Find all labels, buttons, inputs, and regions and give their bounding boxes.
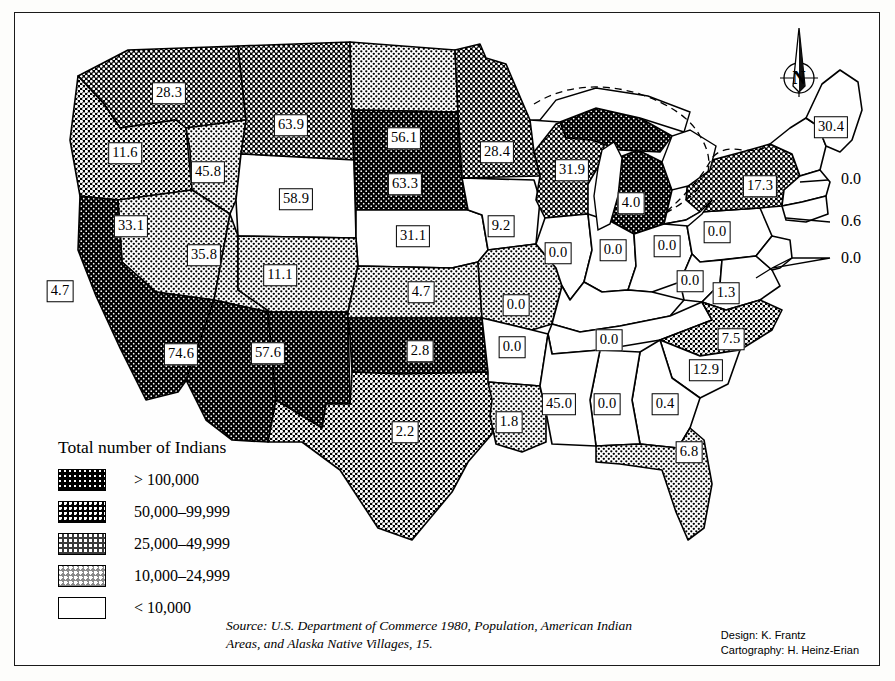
state-value-NM: 57.6: [251, 342, 285, 364]
legend-row-c5: < 10,000: [48, 597, 368, 619]
legend-row-c4: 10,000–24,999: [48, 565, 368, 587]
callout-value-1: 0.6: [841, 212, 861, 230]
state-value-MT: 63.9: [274, 114, 308, 136]
state-value-MO: 0.0: [503, 294, 530, 316]
state-value-IN: 0.0: [600, 239, 627, 261]
state-value-AR: 0.0: [499, 336, 526, 358]
state-value-ME: 30.4: [814, 116, 848, 138]
legend-swatch-c2: [58, 501, 106, 523]
state-value-KY: 0.0: [596, 329, 623, 351]
state-value-WA: 28.3: [152, 82, 186, 104]
state-value-AL: 0.0: [594, 393, 621, 415]
state-value-PA: 0.0: [704, 221, 731, 243]
legend-label-c5: < 10,000: [134, 599, 191, 617]
legend: Total number of Indians > 100,00050,000–…: [48, 437, 368, 629]
legend-row-c2: 50,000–99,999: [48, 501, 368, 523]
legend-label-c3: 25,000–49,999: [134, 535, 230, 553]
state-value-WI: 31.9: [555, 159, 589, 181]
state-value-SD: 63.3: [388, 173, 422, 195]
state-value-OR: 11.6: [108, 142, 142, 164]
credit-design: Design: K. Frantz: [721, 628, 859, 643]
source-line-1: Source: U.S. Department of Commerce 1980…: [226, 618, 632, 633]
legend-swatch-c5: [58, 597, 106, 619]
legend-title: Total number of Indians: [58, 437, 368, 458]
state-value-NE: 31.1: [396, 225, 430, 247]
state-value-MS: 45.0: [542, 393, 576, 415]
state-value-FL: 6.8: [676, 441, 703, 463]
state-value-OH: 0.0: [654, 235, 681, 257]
state-MT: [238, 42, 354, 160]
legend-swatch-c4: [58, 565, 106, 587]
state-value-LA: 1.8: [496, 411, 523, 433]
legend-row-c1: > 100,000: [48, 469, 368, 491]
state-value-NC: 7.5: [718, 328, 745, 350]
state-value-VA: 1.3: [713, 282, 740, 304]
state-CO: [238, 236, 358, 312]
legend-label-c4: 10,000–24,999: [134, 567, 230, 585]
state-value-IL: 0.0: [545, 242, 572, 264]
state-value-MI: 4.0: [618, 192, 645, 214]
legend-swatch-c3: [58, 533, 106, 555]
state-value-GA: 0.4: [652, 393, 679, 415]
credits: Design: K. Frantz Cartography: H. Heinz-…: [721, 628, 859, 657]
legend-swatch-c1: [58, 469, 106, 491]
legend-label-c2: 50,000–99,999: [134, 503, 230, 521]
north-arrow: N: [768, 22, 830, 114]
state-value-CA: 4.7: [47, 280, 74, 302]
source-note: Source: U.S. Department of Commerce 1980…: [226, 617, 646, 653]
state-value-OK: 2.8: [407, 340, 434, 362]
state-value-ID: 45.8: [191, 161, 225, 183]
state-ND: [350, 42, 458, 112]
state-SD: [352, 110, 468, 210]
legend-label-c1: > 100,000: [134, 471, 199, 489]
callout-value-0: 0.0: [841, 170, 861, 188]
state-value-IA: 9.2: [488, 215, 515, 237]
legend-row-c3: 25,000–49,999: [48, 533, 368, 555]
credit-cartography: Cartography: H. Heinz-Erian: [721, 643, 859, 658]
state-value-UT: 35.8: [187, 244, 221, 266]
state-value-MN: 28.4: [480, 141, 514, 163]
state-value-TX: 2.2: [392, 421, 419, 443]
state-value-KS: 4.7: [408, 281, 435, 303]
state-value-CO: 11.1: [263, 264, 297, 286]
source-line-2: Areas, and Alaska Native Villages, 15.: [226, 636, 433, 651]
state-value-SC: 12.9: [689, 359, 723, 381]
state-value-NV: 33.1: [114, 215, 148, 237]
legend-rows: > 100,00050,000–99,99925,000–49,99910,00…: [48, 469, 368, 619]
state-value-ND: 56.1: [387, 127, 421, 149]
map-figure: 28.311.645.863.956.128.463.358.933.135.8…: [0, 0, 895, 681]
state-value-WV: 0.0: [677, 270, 704, 292]
state-value-NY: 17.3: [743, 175, 777, 197]
state-value-AZ: 74.6: [164, 343, 198, 365]
callout-value-2: 0.0: [841, 249, 861, 267]
state-value-WY: 58.9: [279, 188, 313, 210]
north-arrow-label: N: [793, 68, 806, 88]
